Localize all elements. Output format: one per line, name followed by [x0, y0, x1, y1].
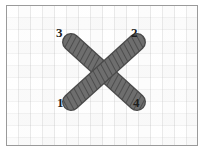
stitch-point-label-4: 4 — [133, 96, 140, 109]
cross-stitch-figure: 3 2 1 4 — [0, 0, 204, 151]
stitch-point-label-1: 1 — [57, 96, 64, 109]
stitch-point-label-3: 3 — [56, 26, 63, 39]
stitch-point-label-2: 2 — [131, 26, 138, 39]
stitch-thread-layer — [7, 6, 198, 146]
figure-frame — [6, 5, 198, 146]
